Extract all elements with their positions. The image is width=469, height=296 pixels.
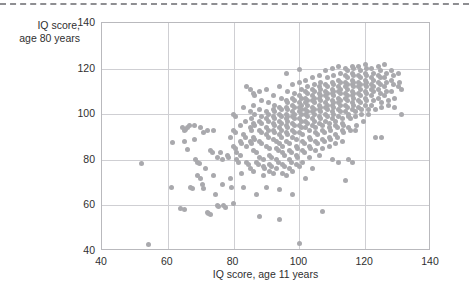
- data-point: [331, 73, 336, 78]
- data-point: [341, 130, 346, 135]
- scatter-plot-figure: IQ score, age 80 years 406080100120140 4…: [0, 0, 469, 296]
- data-point: [295, 155, 300, 160]
- data-point: [257, 107, 262, 112]
- data-point: [267, 146, 272, 151]
- data-point: [330, 157, 335, 162]
- data-point: [317, 153, 322, 158]
- data-point: [280, 144, 285, 149]
- data-point: [287, 141, 292, 146]
- data-point: [233, 130, 238, 135]
- data-point: [361, 119, 366, 124]
- data-point: [259, 98, 264, 103]
- data-point: [169, 185, 174, 190]
- data-point: [220, 182, 225, 187]
- data-point: [335, 125, 340, 130]
- data-point: [322, 130, 327, 135]
- data-point: [187, 123, 192, 128]
- data-point: [297, 80, 302, 85]
- data-point: [328, 137, 333, 142]
- data-point: [335, 135, 340, 140]
- data-point: [396, 71, 401, 76]
- data-point: [251, 169, 256, 174]
- data-point: [297, 241, 302, 246]
- data-point: [300, 132, 305, 137]
- data-point: [271, 93, 276, 98]
- data-point: [289, 160, 294, 165]
- x-tick-label: 140: [410, 255, 450, 267]
- data-point: [192, 137, 197, 142]
- data-point: [290, 82, 295, 87]
- data-point: [382, 62, 387, 67]
- x-tick-label: 80: [213, 255, 253, 267]
- data-point: [320, 209, 325, 214]
- data-point: [322, 139, 327, 144]
- data-point: [328, 128, 333, 133]
- data-point: [317, 73, 322, 78]
- data-point: [271, 171, 276, 176]
- data-point: [146, 242, 151, 247]
- data-point: [392, 105, 397, 110]
- data-point: [243, 119, 248, 124]
- data-point: [391, 82, 396, 87]
- data-point: [257, 89, 262, 94]
- data-point: [302, 150, 307, 155]
- data-point: [290, 169, 295, 174]
- data-point: [223, 205, 228, 210]
- data-point: [192, 123, 197, 128]
- data-point: [261, 173, 266, 178]
- data-point: [254, 192, 259, 197]
- data-point: [220, 157, 225, 162]
- data-point: [285, 89, 290, 94]
- top-dashed-rule: [0, 3, 469, 5]
- data-point: [274, 166, 279, 171]
- data-point: [238, 153, 243, 158]
- data-point: [284, 173, 289, 178]
- data-point: [386, 103, 391, 108]
- data-point: [289, 150, 294, 155]
- data-point: [379, 105, 384, 110]
- data-point: [333, 141, 338, 146]
- data-point: [307, 128, 312, 133]
- x-tick-label: 60: [147, 255, 187, 267]
- data-point: [239, 171, 244, 176]
- x-axis-title: IQ score, age 11 years: [101, 268, 430, 280]
- data-point: [259, 121, 264, 126]
- data-point: [208, 212, 213, 217]
- data-point: [205, 128, 210, 133]
- data-point: [249, 128, 254, 133]
- data-point: [366, 112, 371, 117]
- data-point: [327, 144, 332, 149]
- data-point: [310, 75, 315, 80]
- data-point: [182, 207, 187, 212]
- data-point: [336, 160, 341, 165]
- data-point: [277, 217, 282, 222]
- data-point: [249, 141, 254, 146]
- data-point: [264, 185, 269, 190]
- data-point: [266, 119, 271, 124]
- data-point: [284, 71, 289, 76]
- data-point: [228, 176, 233, 181]
- data-point: [266, 135, 271, 140]
- data-point: [330, 66, 335, 71]
- data-point: [182, 139, 187, 144]
- data-point: [243, 135, 248, 140]
- data-point: [297, 67, 302, 72]
- data-point: [257, 214, 262, 219]
- data-point: [201, 186, 206, 191]
- data-point: [303, 176, 308, 181]
- x-tick-label: 40: [81, 255, 121, 267]
- data-point: [303, 78, 308, 83]
- data-point: [215, 155, 220, 160]
- data-point: [251, 103, 256, 108]
- data-point: [261, 157, 266, 162]
- data-point: [350, 160, 355, 165]
- data-point: [226, 155, 231, 160]
- data-point: [315, 141, 320, 146]
- data-point: [320, 146, 325, 151]
- data-point: [213, 192, 218, 197]
- data-point: [359, 112, 364, 117]
- data-point: [252, 93, 257, 98]
- data-point: [373, 135, 378, 140]
- plot-area: [101, 22, 430, 250]
- data-point: [252, 112, 257, 117]
